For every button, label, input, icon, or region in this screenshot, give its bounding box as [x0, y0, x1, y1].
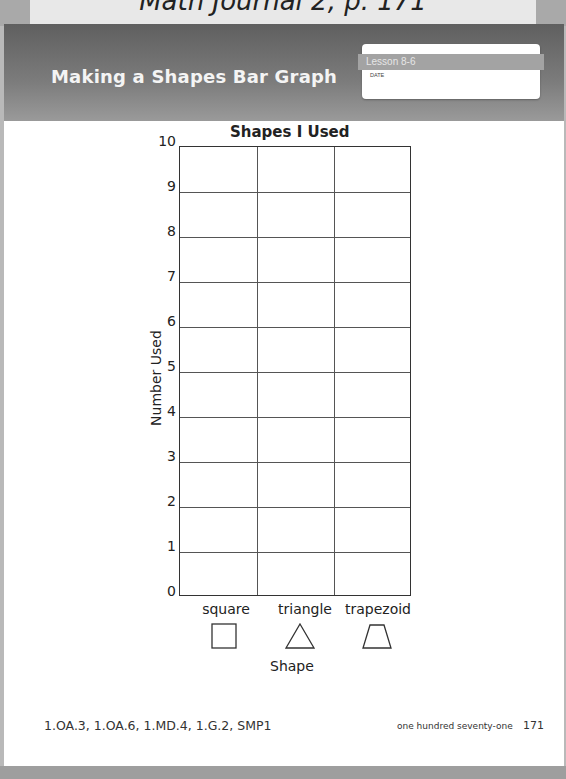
y-tick-10: 10	[146, 133, 176, 149]
standards-list: 1.OA.3, 1.OA.6, 1.MD.4, 1.G.2, SMP1	[44, 718, 271, 733]
gridline-9	[180, 192, 410, 193]
x-category-square: square	[191, 601, 261, 617]
y-tick-9: 9	[146, 178, 176, 194]
page-number-words: one hundred seventy-one	[397, 721, 513, 731]
top-strip: Math Journal 2, p. 171	[0, 0, 566, 26]
gridline-7	[180, 282, 410, 283]
date-label: DATE	[370, 72, 384, 78]
header-band: Making a Shapes Bar Graph Lesson 8-6 DAT…	[4, 24, 564, 121]
y-tick-7: 7	[146, 268, 176, 284]
gridline-3	[180, 462, 410, 463]
trapezoid-icon	[362, 623, 392, 649]
gridline-1	[180, 552, 410, 553]
bottom-strip	[0, 766, 566, 779]
lesson-label: Lesson 8-6	[358, 54, 544, 70]
gridline-4	[180, 417, 410, 418]
y-tick-2: 2	[146, 493, 176, 509]
x-category-triangle: triangle	[265, 601, 345, 617]
lesson-date-box: Lesson 8-6 DATE	[362, 44, 540, 99]
y-tick-3: 3	[146, 448, 176, 464]
gridline-5	[180, 372, 410, 373]
gridline-2	[180, 507, 410, 508]
column-divider-1	[257, 147, 258, 595]
y-tick-0: 0	[146, 583, 176, 599]
gridline-8	[180, 237, 410, 238]
triangle-icon	[285, 623, 315, 649]
page-title: Making a Shapes Bar Graph	[51, 66, 337, 87]
square-icon	[211, 623, 237, 649]
y-axis-label: Number Used	[148, 318, 164, 438]
top-caption: Math Journal 2, p. 171	[30, 0, 536, 16]
chart-title: Shapes I Used	[230, 123, 350, 141]
top-caption-box: Math Journal 2, p. 171	[30, 0, 536, 26]
page-number: 171	[523, 719, 544, 732]
y-tick-8: 8	[146, 223, 176, 239]
bar-graph-grid[interactable]	[179, 146, 411, 596]
gridline-6	[180, 327, 410, 328]
x-category-trapezoid: trapezoid	[338, 601, 418, 617]
x-axis-label: Shape	[270, 658, 314, 674]
column-divider-2	[334, 147, 335, 595]
y-tick-1: 1	[146, 538, 176, 554]
